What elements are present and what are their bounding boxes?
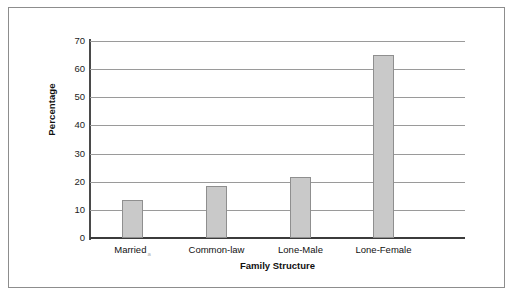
gridline-30 (90, 154, 465, 155)
gridline-10 (90, 210, 465, 211)
gridline-40 (90, 125, 465, 126)
y-tick-label: 70 (55, 36, 85, 46)
y-tick-label: 20 (55, 177, 85, 187)
x-tick-label-text: Married (114, 244, 146, 255)
figure-frame: Percentage 70 60 50 40 30 20 10 0 (8, 7, 505, 288)
plot-area: Marrieda Common-law Lone-Male Lone-Femal… (90, 41, 465, 238)
gridline-60 (90, 69, 465, 70)
y-tick-label: 10 (55, 205, 85, 215)
gridline-20 (90, 182, 465, 183)
gridline-50 (90, 97, 465, 98)
y-tick-label: 30 (55, 149, 85, 159)
gridline-70 (90, 41, 465, 42)
y-tick-label: 0 (55, 233, 85, 243)
x-axis-title: Family Structure (90, 260, 465, 271)
y-tick-label: 50 (55, 92, 85, 102)
bar-common-law (206, 186, 227, 238)
bar-chart: Percentage 70 60 50 40 30 20 10 0 (9, 8, 506, 289)
x-tick-label-text: Lone-Female (356, 244, 412, 255)
bar-married (122, 200, 143, 238)
x-tick-label-text: Common-law (189, 244, 245, 255)
y-axis-tick-labels: 70 60 50 40 30 20 10 0 (51, 41, 85, 238)
x-tick-label-text: Lone-Male (278, 244, 323, 255)
x-tick-label-lone-female: Lone-Female (324, 244, 444, 255)
y-tick-label: 40 (55, 120, 85, 130)
footnote-marker: a (146, 251, 150, 257)
bar-lone-female (373, 55, 394, 238)
y-tick-label: 60 (55, 64, 85, 74)
bar-lone-male (290, 177, 311, 238)
x-axis-baseline (90, 237, 465, 239)
